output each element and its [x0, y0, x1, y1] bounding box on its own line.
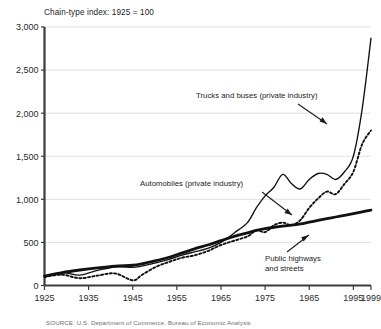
- annotation-public-highways-line2: and streets: [265, 264, 304, 273]
- chart-plot-area: 05001,0001,5002,0002,5003,000 1925193519…: [0, 0, 381, 329]
- annotation-trucks-arrowhead: [320, 117, 328, 124]
- y-tick-label: 2,500: [16, 65, 39, 75]
- series-line: [45, 38, 372, 277]
- y-tick-label: 1,000: [16, 195, 39, 205]
- annotation-automobiles: Automobiles (private industry): [140, 179, 244, 188]
- x-tick-label: 1945: [123, 293, 143, 303]
- annotation-trucks-and-buses: Trucks and buses (private industry): [196, 91, 318, 100]
- x-tick-label: 1925: [34, 293, 54, 303]
- y-tick-label: 2,000: [16, 109, 39, 119]
- chart-figure: Chain-type index: 1925 = 100 05001,0001,…: [0, 0, 381, 329]
- y-axis-ticks: 05001,0001,5002,0002,5003,000: [16, 22, 45, 291]
- x-tick-label: 1955: [167, 293, 187, 303]
- gridlines: [45, 27, 372, 242]
- x-tick-label: 1999: [361, 293, 381, 303]
- series-lines: [45, 38, 372, 280]
- series-line: [45, 130, 372, 280]
- y-tick-label: 3,000: [16, 22, 39, 32]
- source-note: SOURCE: U.S. Department of Commerce, Bur…: [46, 319, 251, 326]
- y-tick-label: 1,500: [16, 152, 39, 162]
- annotation-layer: Trucks and buses (private industry) Auto…: [140, 91, 327, 273]
- x-tick-label: 1965: [211, 293, 231, 303]
- x-tick-label: 1935: [79, 293, 99, 303]
- x-tick-label: 1975: [255, 293, 275, 303]
- annotation-public-highways-line1: Public highways: [265, 254, 321, 263]
- series-line: [45, 210, 372, 276]
- x-tick-label: 1985: [299, 293, 319, 303]
- y-tick-label: 500: [23, 238, 38, 248]
- y-tick-label: 0: [33, 281, 38, 291]
- x-axis-ticks: 192519351945195519651975198519951999: [34, 286, 381, 303]
